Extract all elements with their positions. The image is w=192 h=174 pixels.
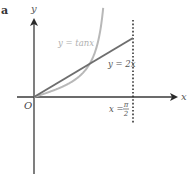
asymptote-label: x = π 2 <box>109 101 129 118</box>
diagram: a y x O y = tanx y = 2x x = π 2 <box>0 0 192 174</box>
y-axis-label: y <box>30 3 37 14</box>
asymptote-denominator: 2 <box>123 110 129 118</box>
tan-curve <box>34 8 103 97</box>
panel-label: a <box>1 4 8 17</box>
tan-label: y = tanx <box>57 38 94 48</box>
line-2x-label: y = 2x <box>107 59 136 69</box>
asymptote-numerator: π <box>123 101 129 109</box>
origin-label: O <box>24 100 32 111</box>
asymptote-label-prefix: x = <box>109 104 124 114</box>
x-axis-label: x <box>181 91 187 102</box>
